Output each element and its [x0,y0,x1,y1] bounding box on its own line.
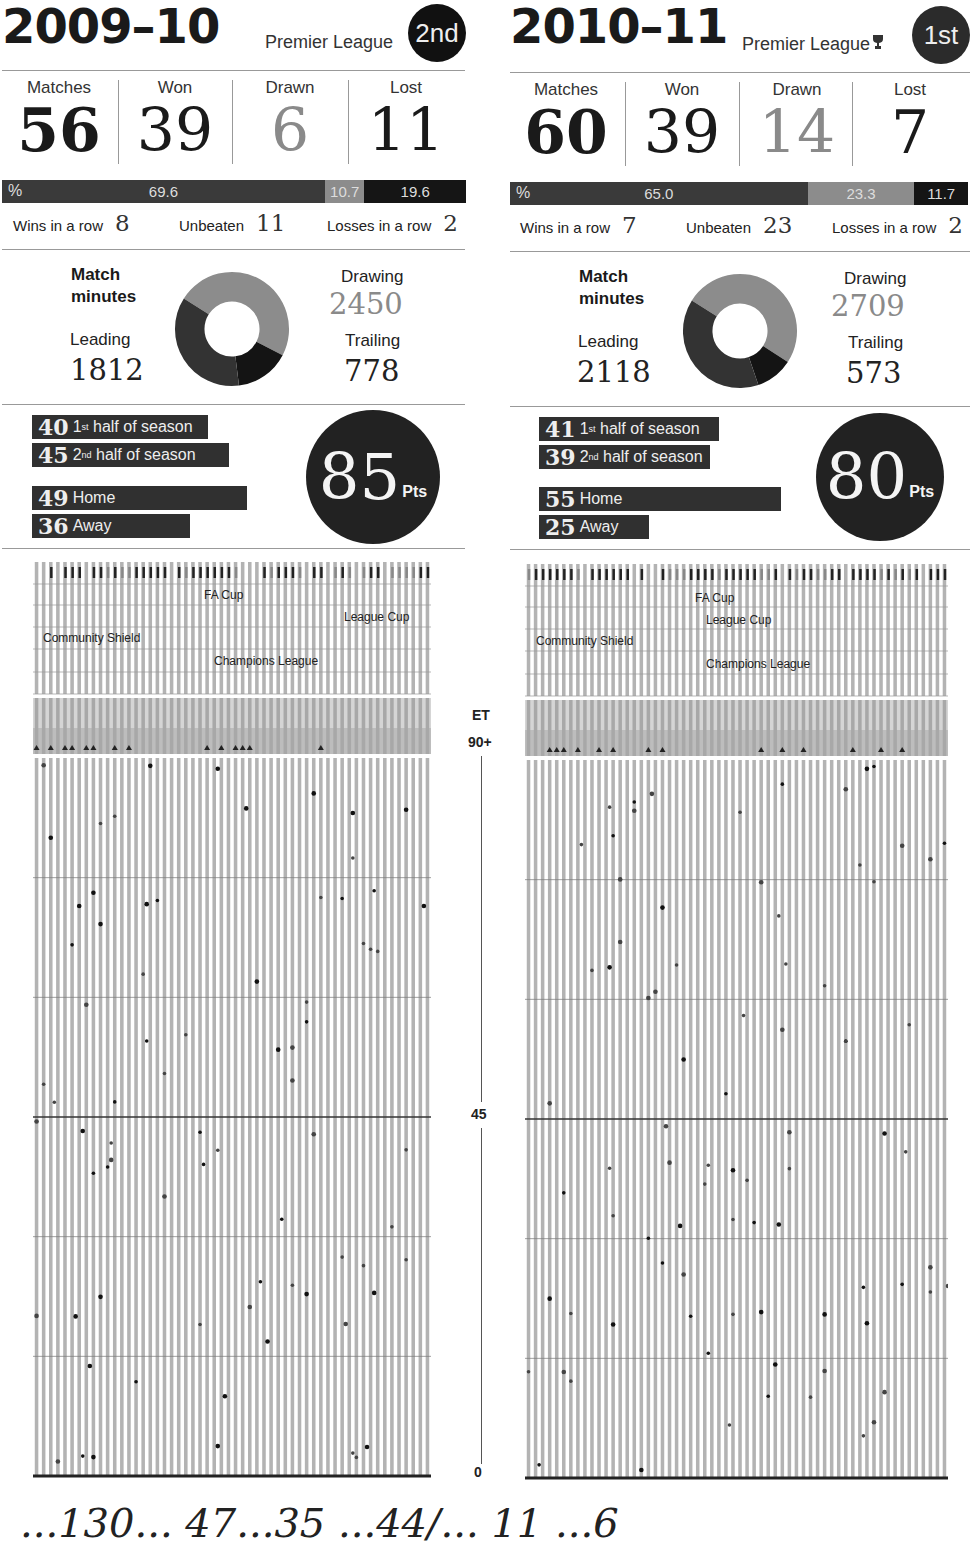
match-minutes-donut [681,272,799,390]
wins-in-a-row: Wins in a row7 [520,212,637,238]
won-segment: %69.6 [2,180,325,203]
unbeaten-run: Unbeaten23 [686,212,792,238]
divider [2,548,465,549]
won-segment: %65.0 [510,182,808,205]
leading-label: Leading [578,332,639,352]
league-position-badge: 1st [912,6,970,64]
losses-in-a-row: Losses in a row2 [327,210,458,236]
season-title: 2010–11 [510,0,727,54]
total-points-badge: 80Pts [816,413,944,541]
label-community-shield: Community Shield [43,631,140,645]
season-panel-2009-10: 2009–10 Premier League 2nd Matches 56 Wo… [0,0,470,1523]
losses-in-a-row: Losses in a row2 [832,212,963,238]
axis-label-90-plus: 90+ [468,734,492,750]
trailing-label: Trailing [848,333,903,353]
stat-won: Won 39 [119,78,231,162]
points-away-bar: 25Away [539,515,649,539]
leading-label: Leading [70,330,131,350]
competition-label: Premier League [265,32,393,53]
stat-lost: Lost 7 [854,80,966,164]
divider [2,249,465,250]
drawn-segment: 10.7 [325,180,364,203]
competition-label: Premier League [742,34,870,55]
stat-lost: Lost 11 [350,78,462,162]
stat-drawn: Drawn 6 [234,78,346,162]
points-first-half-bar: 411st half of season [539,417,719,441]
label-league-cup: League Cup [344,610,410,624]
divider [510,549,970,550]
wins-in-a-row: Wins in a row8 [13,210,130,236]
points-second-half-bar: 392nd half of season [539,445,710,469]
trophy-icon [872,34,884,54]
label-league-cup: League Cup [706,613,772,627]
result-percentage-bar: %65.0 23.3 11.7 [510,182,968,205]
league-position-badge: 2nd [408,4,466,62]
divider [739,82,740,166]
points-home-bar: 49Home [32,486,247,510]
leading-value: 1812 [70,353,144,387]
divider [2,70,465,71]
unbeaten-run: Unbeaten11 [179,210,285,236]
points-home-bar: 55Home [539,487,781,511]
total-points-badge: 85Pts [306,410,440,544]
points-first-half-bar: 401st half of season [32,415,208,439]
label-community-shield: Community Shield [536,634,633,648]
divider [510,251,970,252]
trailing-value: 573 [846,356,901,390]
label-champions-league: Champions League [214,654,318,668]
drawing-label: Drawing [844,269,906,289]
cropped-footer-text: ...130... 47...35 ...44/... 11 ...6 [20,1500,619,1545]
result-percentage-bar: %69.6 10.7 19.6 [2,180,466,203]
divider [510,406,970,407]
lost-segment: 19.6 [364,180,466,203]
leading-value: 2118 [577,355,651,389]
season-panel-2010-11: 2010–11 Premier League 1st Matches 60 Wo… [508,0,974,1523]
goals-timeline-chart: FA CupLeague CupCommunity ShieldChampion… [33,562,431,1480]
axis-label-45: 45 [471,1106,487,1122]
stat-won: Won 39 [626,80,738,164]
drawing-value: 2450 [329,287,403,321]
axis-label-0: 0 [474,1464,482,1480]
match-minutes-donut [173,270,291,388]
stat-drawn: Drawn 14 [741,80,853,164]
divider [510,72,970,73]
stat-matches: Matches 60 [510,80,622,164]
divider [232,80,233,164]
divider [2,404,465,405]
label-champions-league: Champions League [706,657,810,671]
trailing-label: Trailing [345,331,400,351]
stat-matches: Matches 56 [3,78,115,162]
drawn-segment: 23.3 [808,182,915,205]
season-title: 2009–10 [2,0,219,54]
lost-segment: 11.7 [914,182,968,205]
divider [852,82,853,166]
trailing-value: 778 [344,354,399,388]
match-minutes-title: Match minutes [71,264,136,308]
match-minutes-title: Match minutes [579,266,644,310]
axis-line [481,756,482,1102]
drawing-label: Drawing [341,267,403,287]
points-second-half-bar: 452nd half of season [32,443,229,467]
points-away-bar: 36Away [32,514,190,538]
divider [348,80,349,164]
axis-line [481,1128,482,1464]
axis-label-et: ET [472,707,490,723]
label-fa-cup: FA Cup [204,588,244,602]
drawing-value: 2709 [831,289,905,323]
goals-timeline-chart: FA CupLeague CupCommunity ShieldChampion… [525,564,948,1482]
label-fa-cup: FA Cup [695,591,735,605]
